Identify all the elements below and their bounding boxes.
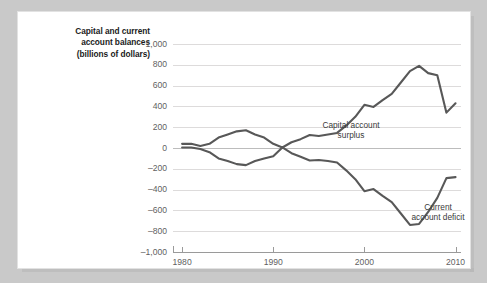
annotation-capital-line-2: surplus [322, 130, 379, 140]
annotation-current-line-2: account deficit [411, 212, 464, 222]
chart-series-lines [155, 32, 470, 272]
chart-plot-area: 1,0008006004002000–200–400–600–800–1,000… [155, 32, 470, 272]
chart-card: Capital and current account balances (bi… [18, 12, 470, 268]
annotation-capital-line-1: Capital account [322, 120, 379, 130]
annotation-capital-account-surplus: Capital account surplus [322, 120, 379, 141]
chart-axis-title-line-1: Capital and current [22, 26, 150, 37]
card-shadow-right [470, 16, 474, 272]
annotation-current-account-deficit: Current account deficit [411, 202, 464, 223]
series-line-capital-account-surplus [182, 66, 455, 148]
annotation-current-line-1: Current [411, 202, 464, 212]
